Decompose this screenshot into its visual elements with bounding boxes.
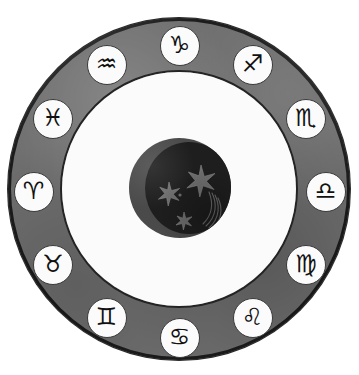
sign-medallion-cancer[interactable]: ♋ xyxy=(160,318,200,358)
sign-medallion-taurus[interactable]: ♉ xyxy=(33,245,73,285)
sign-medallion-pisces[interactable]: ♓ xyxy=(33,99,73,139)
leo-icon: ♌ xyxy=(242,305,264,329)
aries-icon: ♈ xyxy=(23,179,45,203)
cancer-icon: ♋ xyxy=(169,325,191,349)
virgo-icon: ♍ xyxy=(295,252,317,276)
sagittarius-icon: ♐ xyxy=(242,52,264,76)
small-star-dot xyxy=(178,193,181,196)
sign-medallion-aquarius[interactable]: ♒ xyxy=(87,45,127,85)
sign-medallion-leo[interactable]: ♌ xyxy=(233,298,273,338)
aquarius-icon: ♒ xyxy=(96,52,118,76)
sign-medallion-virgo[interactable]: ♍ xyxy=(286,245,326,285)
stars-and-comet-icon xyxy=(129,138,231,238)
sign-medallion-capricorn[interactable]: ♑ xyxy=(160,26,200,66)
sign-medallion-scorpio[interactable]: ♏ xyxy=(286,99,326,139)
gemini-icon: ♊ xyxy=(96,305,118,329)
sign-medallion-gemini[interactable]: ♊ xyxy=(87,298,127,338)
sign-medallion-libra[interactable]: ♎ xyxy=(306,172,346,212)
libra-icon: ♎ xyxy=(315,179,337,203)
pisces-icon: ♓ xyxy=(42,106,64,130)
center-moon-medallion xyxy=(129,138,231,238)
taurus-icon: ♉ xyxy=(42,252,64,276)
zodiac-wheel-figure: ♑ ♐ ♏ ♎ ♍ ♌ ♋ ♊ ♉ ♈ ♓ ♒ xyxy=(0,0,359,375)
capricorn-icon: ♑ xyxy=(169,33,191,57)
sign-medallion-sagittarius[interactable]: ♐ xyxy=(233,45,273,85)
scorpio-icon: ♏ xyxy=(295,106,317,130)
sign-medallion-aries[interactable]: ♈ xyxy=(14,172,54,212)
